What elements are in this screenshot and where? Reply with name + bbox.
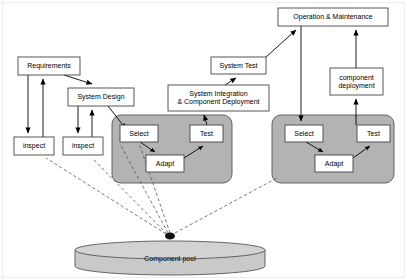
pool-top	[75, 241, 265, 259]
node-box-component-deployment	[330, 68, 383, 95]
edge-system-integration-to-system-test	[225, 78, 236, 85]
node-box-adapt-right	[315, 155, 353, 172]
pool-junction-marker	[165, 232, 175, 239]
node-box-operation-maintenance	[278, 8, 388, 26]
node-box-inspect-right	[63, 137, 103, 155]
node-box-requirements	[18, 57, 80, 75]
node-box-sys-integration	[168, 85, 269, 111]
node-box-test-right	[357, 125, 390, 142]
component-pool-shape	[75, 241, 265, 275]
edge-requirements-to-system-design	[64, 75, 92, 84]
node-box-inspect-left	[14, 137, 54, 155]
node-box-select-right	[285, 125, 323, 142]
node-box-select-left	[120, 125, 158, 142]
node-box-system-design	[68, 88, 134, 106]
node-box-system-test	[211, 57, 266, 74]
node-box-adapt-left	[146, 155, 184, 172]
edge-pool-to-group-right	[175, 178, 277, 233]
node-box-test-left	[190, 125, 223, 142]
edge-system-test-to-operation-maintenance	[266, 30, 296, 57]
diagram-svg	[0, 0, 407, 280]
diagram-canvas: Requirements System Design inspect inspe…	[0, 0, 407, 280]
